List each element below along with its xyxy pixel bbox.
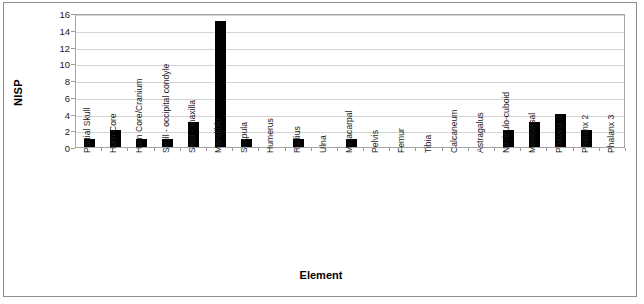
- x-tick-label: Tibia: [424, 135, 433, 153]
- x-tick-label: Calcaneum: [450, 110, 459, 153]
- y-axis-ticks: 0246810121416: [48, 14, 70, 148]
- x-tick-label: Skull - maxilla: [188, 100, 197, 153]
- y-tick-label: 8: [48, 76, 70, 87]
- x-tick-label: Ulna: [319, 135, 328, 153]
- y-tick-label: 10: [48, 59, 70, 70]
- x-tick-mark: [415, 148, 416, 151]
- x-tick-label: Phalanx 2: [581, 115, 590, 153]
- x-tick-mark: [258, 148, 259, 151]
- y-tick-label: 4: [48, 109, 70, 120]
- chart-frame: NISP 0246810121416 Partial SkullHorn Cor…: [3, 2, 637, 297]
- x-tick-label: Mandible: [214, 118, 223, 153]
- y-tick-label: 6: [48, 92, 70, 103]
- x-tick-label: Horn Core/Cranium: [136, 78, 145, 153]
- x-tick-mark: [363, 148, 364, 151]
- x-tick-label: Metacarpal: [345, 110, 354, 153]
- x-tick-mark: [285, 148, 286, 151]
- x-tick-mark: [442, 148, 443, 151]
- x-axis-ticks: Partial SkullHorn CoreHorn Core/CraniumS…: [75, 148, 625, 268]
- x-tick-mark: [311, 148, 312, 151]
- x-tick-mark: [599, 148, 600, 151]
- x-tick-label: Humerus: [267, 118, 276, 153]
- x-tick-mark: [337, 148, 338, 151]
- x-tick-label: Metatarsal: [529, 113, 538, 153]
- x-tick-label: Astragalus: [476, 112, 485, 153]
- y-tick-label: 12: [48, 42, 70, 53]
- x-axis-title: Element: [4, 269, 638, 281]
- x-tick-mark: [520, 148, 521, 151]
- x-tick-mark: [573, 148, 574, 151]
- x-tick-label: Pelvis: [372, 130, 381, 153]
- y-tick-label: 0: [48, 143, 70, 154]
- x-tick-mark: [180, 148, 181, 151]
- x-tick-mark: [127, 148, 128, 151]
- x-tick-mark: [546, 148, 547, 151]
- y-tick-label: 2: [48, 126, 70, 137]
- x-tick-mark: [154, 148, 155, 151]
- x-tick-label: Horn Core: [110, 113, 119, 153]
- x-tick-label: Partial Skull: [84, 108, 93, 153]
- x-tick-label: Phalanx 1: [555, 115, 564, 153]
- x-tick-mark: [494, 148, 495, 151]
- x-tick-mark: [389, 148, 390, 151]
- x-tick-mark: [625, 148, 626, 151]
- x-tick-label: Naviculo-cuboid: [503, 92, 512, 153]
- x-tick-label: Femur: [398, 128, 407, 153]
- x-tick-label: Scapula: [241, 122, 250, 153]
- y-tick-label: 16: [48, 9, 70, 20]
- x-tick-label: Phalanx 3: [607, 115, 616, 153]
- y-tick-label: 14: [48, 25, 70, 36]
- x-tick-mark: [101, 148, 102, 151]
- x-tick-label: Radius: [293, 126, 302, 153]
- x-tick-mark: [206, 148, 207, 151]
- x-tick-mark: [468, 148, 469, 151]
- x-tick-label: Skull - occipital condyle: [162, 64, 171, 153]
- x-tick-mark: [232, 148, 233, 151]
- y-axis-title: NISP: [8, 63, 28, 123]
